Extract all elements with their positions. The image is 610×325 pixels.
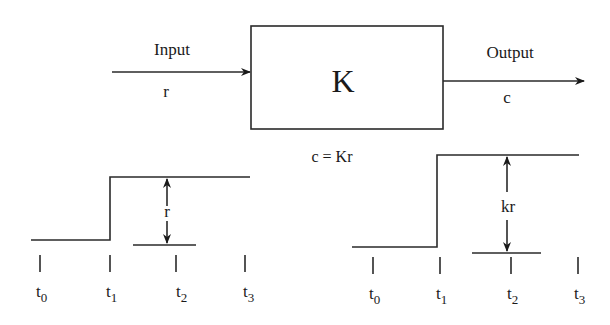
input-step-plot: r t0 t1 t2 t3 xyxy=(31,177,254,305)
input-symbol: r xyxy=(163,82,169,101)
tick-label-t0: t0 xyxy=(36,282,47,305)
tick-label-t3: t3 xyxy=(243,282,254,305)
block-diagram: Input r K Output c c = Kr r t0 t1 t2 t3 … xyxy=(0,0,610,325)
tick-label-t1: t1 xyxy=(436,284,447,307)
tick-label-t3: t3 xyxy=(574,284,585,307)
output-amplitude-label: kr xyxy=(501,197,516,216)
output-symbol: c xyxy=(503,88,511,107)
gain-block-label: K xyxy=(331,63,354,99)
input-amplitude-label: r xyxy=(164,202,170,221)
tick-label-t1: t1 xyxy=(106,282,117,305)
input-signal: Input r xyxy=(112,40,250,101)
gain-block: K xyxy=(251,26,443,129)
output-step-plot: kr t0 t1 t2 t3 xyxy=(352,155,585,307)
tick-label-t0: t0 xyxy=(369,284,380,307)
output-step-curve xyxy=(352,155,579,247)
equation-label: c = Kr xyxy=(311,148,353,165)
output-label: Output xyxy=(486,43,534,62)
output-signal: Output c xyxy=(443,43,584,107)
input-label: Input xyxy=(154,40,190,59)
input-step-curve xyxy=(31,177,250,240)
tick-label-t2: t2 xyxy=(176,282,187,305)
tick-label-t2: t2 xyxy=(507,284,518,307)
